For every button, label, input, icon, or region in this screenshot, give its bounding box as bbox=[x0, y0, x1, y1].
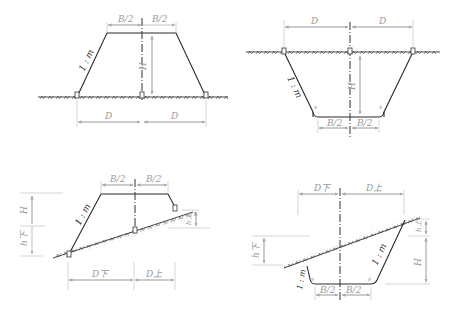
figure-fill-slope: B/2 B/2 1 : m H h下 h上 D下 D上 bbox=[19, 174, 210, 290]
stake-center bbox=[133, 227, 137, 233]
label-dist-right: D bbox=[170, 111, 178, 121]
label-half-width-left: B/2 bbox=[117, 14, 134, 24]
label-ditch-left: s bbox=[314, 103, 317, 110]
label-ditch-left: s bbox=[311, 275, 314, 282]
figure-fill-flat: B/2 B/2 H 1 : m D D bbox=[38, 14, 228, 127]
label-height: H bbox=[413, 258, 423, 267]
stake-center bbox=[140, 92, 144, 98]
label-dist-lower: D下 bbox=[313, 183, 332, 193]
label-half-width-right: B/2 bbox=[145, 174, 162, 184]
label-height: H bbox=[19, 206, 29, 215]
figure-cut-flat: D D H 1 : m s s B/2 B/2 bbox=[246, 16, 440, 138]
road-cross-section-diagrams: B/2 B/2 H 1 : m D D D bbox=[0, 0, 456, 318]
stake-lower bbox=[67, 251, 71, 257]
label-h-lower: h下 bbox=[19, 229, 29, 246]
label-height: H bbox=[138, 62, 148, 71]
label-dist-upper: D上 bbox=[365, 183, 383, 193]
label-dist-lower: D下 bbox=[91, 269, 110, 279]
ground-line bbox=[284, 218, 420, 268]
label-slope-left: 1 : m bbox=[295, 268, 307, 290]
label-slope-right: 1 : m bbox=[370, 242, 389, 267]
label-ditch-right: s bbox=[368, 275, 371, 282]
label-dist-left: D bbox=[310, 16, 318, 26]
label-slope: 1 : m bbox=[77, 48, 96, 73]
label-half-width-left: B/2 bbox=[109, 174, 126, 184]
label-half-width-right: B/2 bbox=[356, 118, 373, 128]
label-height: H bbox=[347, 82, 357, 91]
label-h-upper: h上 bbox=[185, 212, 193, 225]
stake-right bbox=[204, 92, 208, 98]
label-half-width-left: B/2 bbox=[326, 118, 343, 128]
stake-upper bbox=[173, 205, 177, 211]
stake-left bbox=[75, 92, 79, 98]
label-dist-upper: D上 bbox=[145, 269, 163, 279]
label-half-width-right: B/2 bbox=[151, 14, 168, 24]
label-dist-left: D bbox=[104, 111, 112, 121]
stake-center bbox=[348, 48, 352, 54]
label-half-width-right: B/2 bbox=[345, 285, 362, 295]
label-h-lower: h下 bbox=[251, 241, 261, 258]
label-dist-right: D bbox=[378, 16, 386, 26]
label-half-width-left: B/2 bbox=[319, 285, 336, 295]
label-h-upper: h上 bbox=[415, 219, 423, 232]
figure-cut-slope: D下 D上 h下 h上 H 1 : m 1 : m s s B/2 B/2 bbox=[251, 183, 430, 302]
label-ditch-right: s bbox=[379, 103, 382, 110]
